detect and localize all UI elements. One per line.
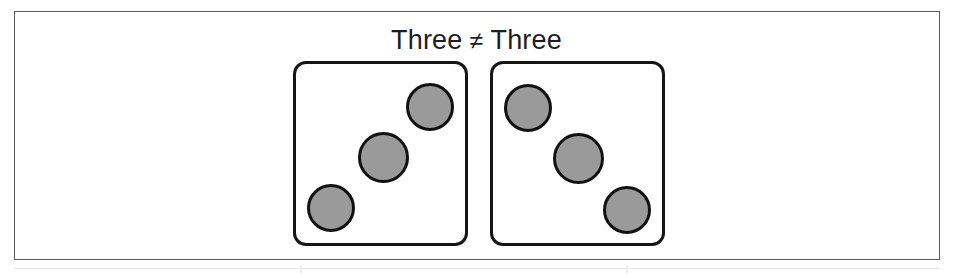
dice-panels-group	[0, 0, 953, 276]
left-panel-pip-center	[358, 132, 409, 183]
left-panel-pip-top-right	[406, 83, 454, 131]
right-panel-pip-top-left	[504, 84, 552, 132]
right-panel-pip-bottom-right	[603, 186, 651, 234]
scan-artifact-line	[14, 268, 940, 269]
left-panel-pip-bottom-left	[307, 184, 355, 232]
right-panel-pip-center	[553, 133, 604, 184]
scan-artifact-tick-left	[300, 266, 302, 273]
figure-root: Three≠Three	[0, 0, 953, 276]
scan-artifact-tick-right	[626, 266, 628, 273]
